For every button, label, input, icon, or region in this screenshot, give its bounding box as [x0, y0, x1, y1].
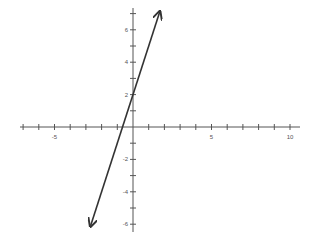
x-tick-label: 5: [210, 134, 214, 140]
y-tick-label: 2: [125, 92, 129, 98]
axes: [20, 8, 300, 232]
y-tick-label: 6: [125, 27, 129, 33]
y-tick-label: -6: [123, 221, 129, 227]
y-tick-label: -2: [123, 156, 129, 162]
y-tick-label: -4: [123, 189, 129, 195]
coordinate-plane: -5510642-2-4-6: [0, 0, 310, 238]
tick-marks: [23, 14, 290, 225]
y-tick-label: 4: [125, 59, 129, 65]
x-tick-label: -5: [52, 134, 58, 140]
x-tick-label: 10: [287, 134, 294, 140]
